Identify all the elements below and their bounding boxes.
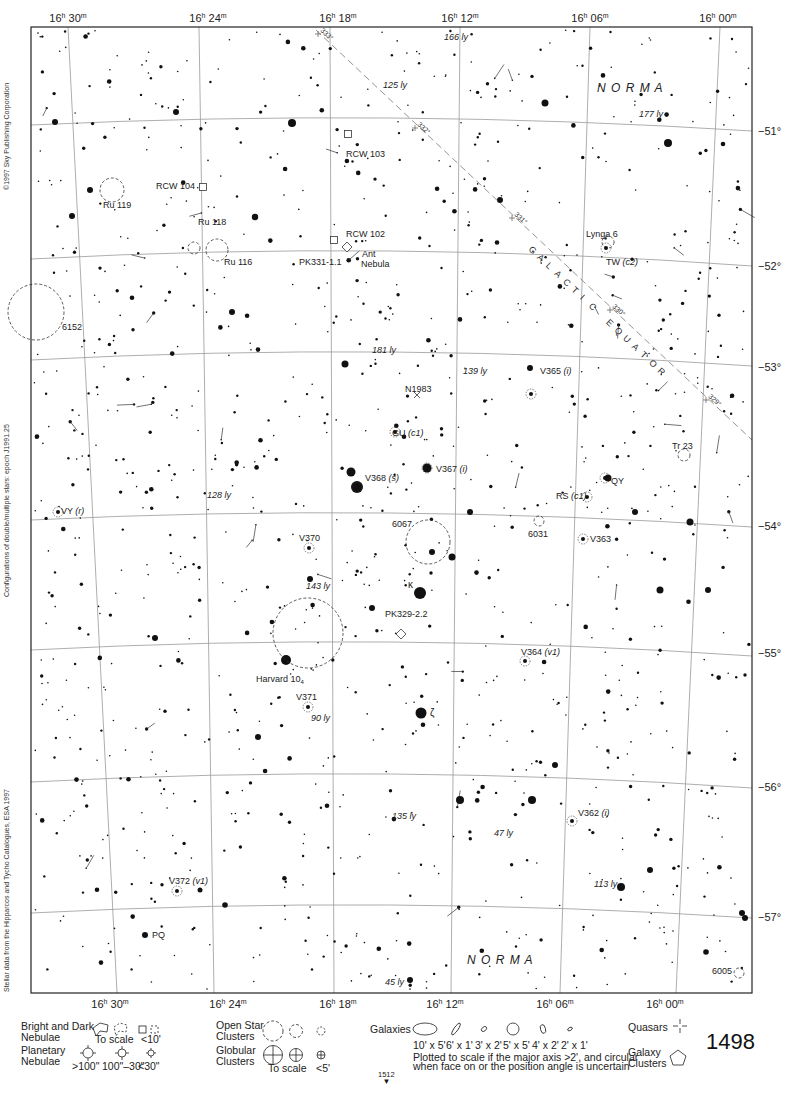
- star: [458, 909, 460, 911]
- star: [193, 536, 195, 538]
- object-label: 6152: [62, 322, 82, 332]
- star: [598, 576, 600, 578]
- star: [44, 517, 47, 520]
- star: [634, 104, 636, 106]
- star: [208, 738, 210, 740]
- star: [507, 322, 509, 324]
- star: [428, 624, 431, 627]
- star: [109, 86, 111, 88]
- bright-star: [527, 365, 533, 371]
- star: [404, 580, 406, 582]
- star: [595, 787, 597, 789]
- star: [502, 611, 504, 613]
- bright-star: [467, 509, 473, 515]
- star: [658, 148, 660, 150]
- proper-motion-vector: [605, 274, 614, 277]
- star: [80, 517, 82, 519]
- star: [369, 834, 371, 836]
- star: [477, 791, 480, 794]
- star: [521, 466, 523, 468]
- star: [389, 307, 391, 309]
- star: [37, 32, 39, 34]
- star: [74, 537, 76, 539]
- star: [709, 267, 711, 269]
- star: [530, 75, 533, 78]
- star: [43, 371, 45, 373]
- star: [416, 51, 418, 53]
- bright-star: [497, 197, 503, 203]
- star: [537, 504, 539, 506]
- bright-star: [647, 867, 653, 873]
- bright-star: [407, 977, 413, 983]
- star: [198, 390, 200, 392]
- star: [452, 209, 457, 214]
- star: [132, 472, 134, 474]
- star: [729, 97, 731, 99]
- legend-globular-to-scale: To scale: [268, 1063, 307, 1074]
- star: [288, 821, 291, 824]
- star: [360, 571, 362, 573]
- proper-motion-vector: [508, 69, 512, 80]
- star: [113, 335, 115, 337]
- star: [399, 159, 401, 161]
- star: [316, 84, 318, 86]
- object-label: Nebula: [361, 259, 390, 269]
- star: [483, 399, 486, 402]
- star: [583, 415, 586, 418]
- dec-label: −52°: [758, 260, 781, 272]
- object-label: Harvard 104: [256, 674, 305, 685]
- star: [544, 774, 546, 776]
- object-open-cluster: [8, 284, 64, 340]
- star: [147, 635, 149, 637]
- star: [628, 169, 630, 171]
- star: [433, 973, 435, 975]
- star: [224, 277, 226, 279]
- dec-gridline: [31, 774, 752, 788]
- object-bright-nebula: [331, 237, 338, 244]
- star: [582, 728, 584, 730]
- dec-gridline: [31, 905, 752, 918]
- star: [113, 127, 115, 129]
- star: [191, 973, 193, 975]
- star: [273, 435, 275, 437]
- star: [629, 638, 632, 641]
- proper-motion-vector: [665, 424, 682, 425]
- star: [654, 833, 657, 836]
- star: [164, 386, 166, 388]
- star: [151, 981, 153, 983]
- star: [414, 552, 416, 554]
- star: [396, 293, 399, 296]
- star: [703, 895, 705, 897]
- star: [214, 293, 216, 295]
- star: [717, 865, 722, 870]
- star: [66, 270, 68, 272]
- star: [582, 926, 584, 928]
- star: [604, 719, 606, 721]
- bright-star: [552, 762, 558, 768]
- star: [634, 937, 636, 939]
- star: [453, 445, 455, 447]
- object-label: Ru 119: [103, 200, 131, 210]
- star: [317, 642, 319, 644]
- star: [730, 877, 732, 879]
- star: [365, 430, 367, 432]
- star: [723, 632, 725, 634]
- star: [511, 526, 514, 529]
- object-label: PK329-2.2: [385, 609, 428, 619]
- star: [654, 71, 656, 73]
- star: [239, 748, 241, 750]
- star: [235, 127, 238, 130]
- star: [641, 44, 643, 46]
- star: [228, 355, 230, 357]
- star: [186, 60, 188, 62]
- star: [204, 741, 206, 743]
- star: [83, 340, 85, 342]
- star: [672, 930, 674, 932]
- adjacent-page-link[interactable]: 1512 ▼: [378, 1070, 395, 1085]
- star: [53, 272, 55, 274]
- star: [303, 843, 305, 845]
- star: [603, 711, 605, 713]
- star: [694, 353, 696, 355]
- star: [381, 728, 383, 730]
- star: [684, 290, 686, 292]
